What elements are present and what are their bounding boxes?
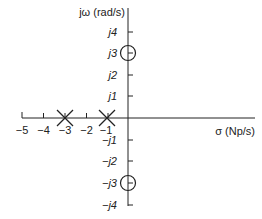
imag-tick-label: −j3 bbox=[102, 177, 118, 189]
imag-tick-label: j3 bbox=[106, 47, 117, 59]
real-tick-label: −5 bbox=[16, 124, 29, 136]
horizontal-axis-label: σ (Np/s) bbox=[215, 125, 255, 137]
imag-tick-label: −j4 bbox=[102, 199, 117, 211]
s-plane-diagram: jω (rad/s) σ (Np/s) −5 −4 −3 −2 −1 j4 j3… bbox=[0, 0, 262, 219]
real-tick-label: −2 bbox=[80, 124, 93, 136]
real-axis-ticks bbox=[22, 112, 108, 118]
imag-tick-label: j1 bbox=[106, 90, 117, 102]
imag-tick-label: j2 bbox=[106, 69, 117, 81]
real-tick-label: −4 bbox=[37, 124, 50, 136]
real-tick-label: −3 bbox=[59, 124, 72, 136]
imag-tick-label: −j1 bbox=[102, 134, 117, 146]
imag-tick-label: j4 bbox=[106, 26, 117, 38]
vertical-axis-label: jω (rad/s) bbox=[78, 6, 125, 18]
imag-tick-label: −j2 bbox=[102, 155, 117, 167]
